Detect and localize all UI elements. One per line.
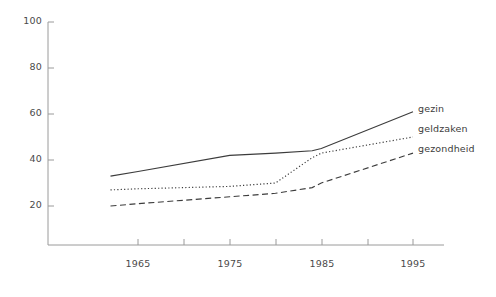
y-tick-label-60: 60: [20, 107, 42, 118]
line-chart: 100 80 60 40 20 1965 1975 1985 1995 gezi…: [0, 0, 496, 297]
y-tick-label-80: 80: [20, 61, 42, 72]
x-axis-ticks: [138, 239, 413, 245]
x-tick-label-1975: 1975: [210, 258, 250, 269]
y-axis-ticks: [48, 22, 54, 206]
x-tick-label-1995: 1995: [393, 258, 433, 269]
series-line-geldzaken: [111, 137, 414, 190]
legend-label-geldzaken: geldzaken: [418, 123, 468, 134]
y-tick-label-40: 40: [20, 153, 42, 164]
y-tick-label-20: 20: [20, 199, 42, 210]
series-line-gezondheid: [111, 153, 414, 206]
legend-label-gezondheid: gezondheid: [418, 143, 475, 154]
y-tick-label-100: 100: [20, 15, 42, 26]
series-line-gezin: [111, 112, 414, 176]
x-tick-label-1965: 1965: [118, 258, 158, 269]
legend-label-gezin: gezin: [418, 103, 444, 114]
x-tick-label-1985: 1985: [302, 258, 342, 269]
